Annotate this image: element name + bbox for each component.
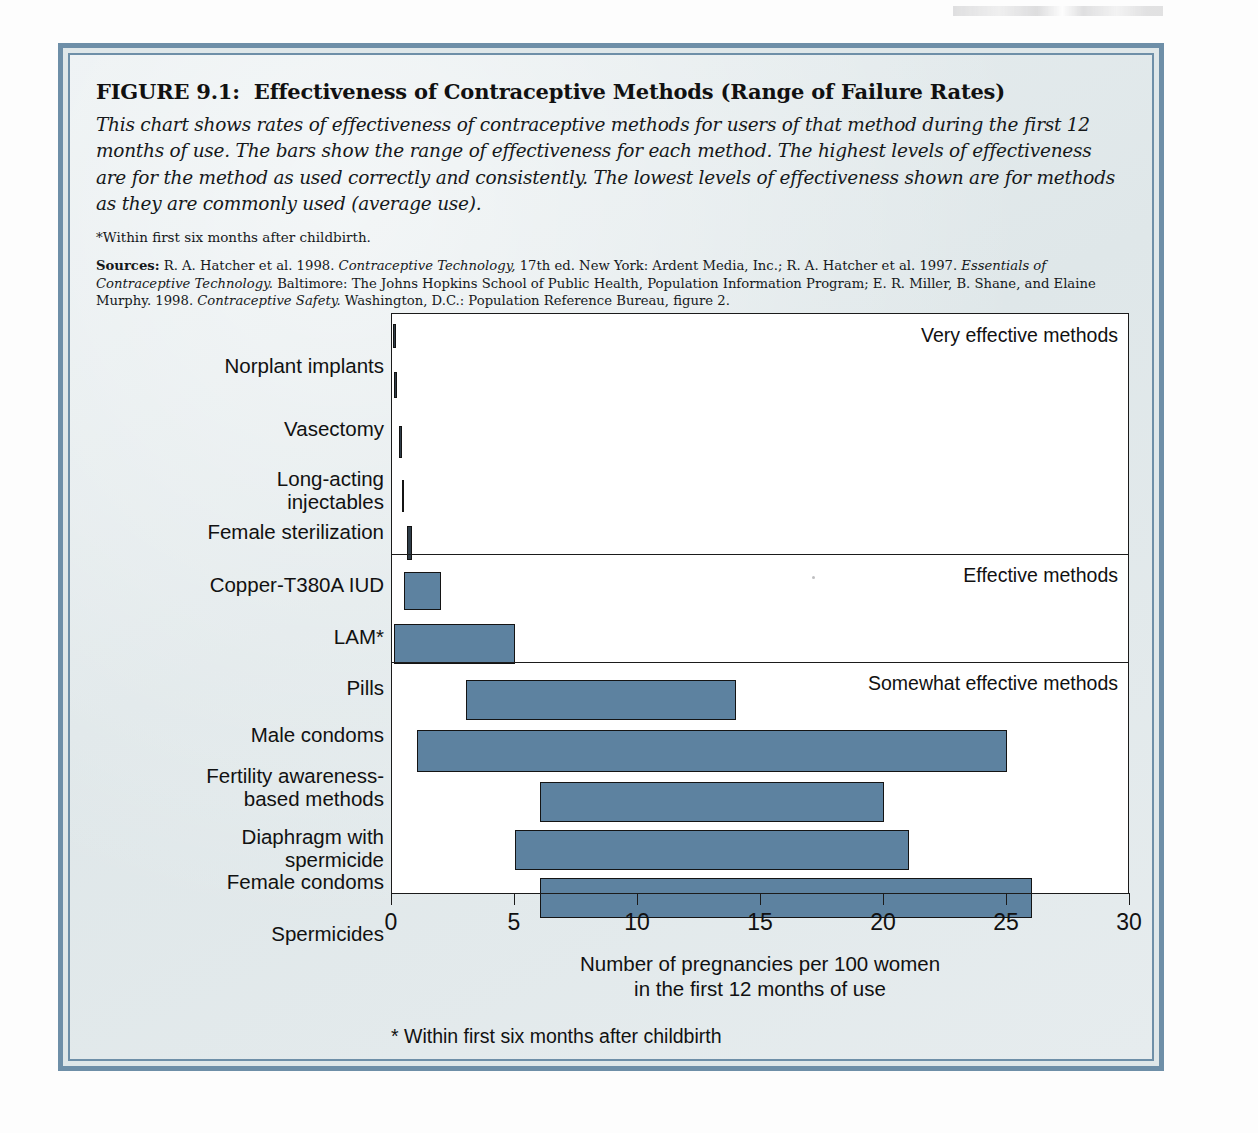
group-separator-2	[392, 662, 1128, 663]
category-label-line: injectables	[277, 491, 384, 514]
x-tick-label-15: 15	[747, 909, 773, 936]
scan-speck	[812, 576, 815, 579]
category-label-spermicides: Spermicides	[271, 923, 384, 946]
figure-outer-frame: FIGURE 9.1:Effectiveness of Contraceptiv…	[58, 43, 1164, 1071]
bar-diaphragm-with-spermicide	[540, 782, 884, 822]
category-label-pills: Pills	[346, 677, 384, 700]
x-tick-label-25: 25	[993, 909, 1019, 936]
category-label-vasectomy: Vasectomy	[284, 418, 384, 441]
category-label-copper-t380a-iud: Copper-T380A IUD	[210, 574, 384, 597]
figure-sources: Sources: R. A. Hatcher et al. 1998. Cont…	[96, 257, 1126, 310]
category-label-diaphragm-with-spermicide: Diaphragm withspermicide	[242, 826, 384, 872]
x-tick-0	[391, 893, 392, 905]
figure-title: FIGURE 9.1:Effectiveness of Contraceptiv…	[96, 79, 1126, 104]
scan-speck	[670, 536, 673, 539]
bar-long-acting-injectables	[399, 426, 402, 458]
category-label-line: based methods	[206, 788, 384, 811]
category-label-line: Diaphragm with	[242, 826, 384, 849]
bar-female-sterilization	[402, 480, 405, 512]
x-tick-20	[883, 893, 884, 905]
category-label-female-sterilization: Female sterilization	[207, 521, 384, 544]
category-label-female-condoms: Female condoms	[227, 871, 384, 894]
category-axis-labels: Norplant implantsVasectomyLong-actinginj…	[96, 313, 384, 893]
category-label-line: Male condoms	[251, 724, 384, 747]
category-label-fertility-awareness-based-methods: Fertility awareness-based methods	[206, 765, 384, 811]
sources-label: Sources:	[96, 258, 160, 273]
bar-male-condoms	[466, 680, 737, 720]
category-label-line: Pills	[346, 677, 384, 700]
group-separator-1	[392, 554, 1128, 555]
bar-pills	[394, 624, 515, 664]
group-label-effective-methods: Effective methods	[963, 564, 1118, 587]
bar-lam	[404, 572, 441, 610]
category-label-line: Copper-T380A IUD	[210, 574, 384, 597]
category-label-line: Spermicides	[271, 923, 384, 946]
category-label-long-acting-injectables: Long-actinginjectables	[277, 468, 384, 514]
category-label-line: spermicide	[242, 849, 384, 872]
value-axis-title-line2: in the first 12 months of use	[391, 976, 1129, 1001]
group-label-somewhat-effective-methods: Somewhat effective methods	[868, 672, 1118, 695]
bar-norplant-implants	[393, 324, 396, 348]
category-label-line: Female condoms	[227, 871, 384, 894]
group-label-very-effective-methods: Very effective methods	[921, 324, 1118, 347]
x-tick-label-0: 0	[385, 909, 398, 936]
category-label-line: Norplant implants	[224, 355, 384, 378]
category-label-lam: LAM*	[334, 626, 384, 649]
x-tick-label-10: 10	[624, 909, 650, 936]
value-axis-title-line1: Number of pregnancies per 100 women	[391, 951, 1129, 976]
figure-inner-frame: FIGURE 9.1:Effectiveness of Contraceptiv…	[68, 53, 1154, 1061]
figure-body: FIGURE 9.1:Effectiveness of Contraceptiv…	[70, 55, 1152, 1059]
bar-female-condoms	[515, 830, 909, 870]
bar-spermicides	[540, 878, 1032, 918]
bar-vasectomy	[394, 372, 397, 398]
figure-title-text: Effectiveness of Contraceptive Methods (…	[254, 79, 1005, 104]
figure-description: This chart shows rates of effectiveness …	[96, 112, 1126, 217]
x-tick-30	[1129, 893, 1130, 905]
category-label-line: LAM*	[334, 626, 384, 649]
chart: Norplant implantsVasectomyLong-actinginj…	[96, 313, 1142, 1053]
category-label-line: Fertility awareness-	[206, 765, 384, 788]
page-running-head	[953, 6, 1163, 16]
category-label-male-condoms: Male condoms	[251, 724, 384, 747]
category-label-line: Vasectomy	[284, 418, 384, 441]
category-label-line: Long-acting	[277, 468, 384, 491]
bar-fertility-awareness-based-methods	[417, 730, 1007, 772]
figure-footnote-top: *Within first six months after childbirt…	[96, 229, 1126, 245]
value-axis-title: Number of pregnancies per 100 women in t…	[391, 951, 1129, 1001]
x-tick-label-30: 30	[1116, 909, 1142, 936]
figure-number: FIGURE 9.1:	[96, 79, 240, 104]
scanned-page: FIGURE 9.1:Effectiveness of Contraceptiv…	[0, 0, 1258, 1133]
category-label-line: Female sterilization	[207, 521, 384, 544]
sources-body: R. A. Hatcher et al. 1998. Contraceptive…	[96, 258, 1096, 308]
chart-footnote: * Within first six months after childbir…	[391, 1025, 722, 1048]
value-axis: 051015202530	[391, 893, 1129, 894]
category-label-norplant-implants: Norplant implants	[224, 355, 384, 378]
x-tick-5	[514, 893, 515, 905]
x-tick-label-5: 5	[508, 909, 521, 936]
plot-area: Very effective methodsEffective methodsS…	[391, 313, 1129, 893]
x-tick-10	[637, 893, 638, 905]
x-tick-25	[1006, 893, 1007, 905]
x-tick-15	[760, 893, 761, 905]
x-tick-label-20: 20	[870, 909, 896, 936]
